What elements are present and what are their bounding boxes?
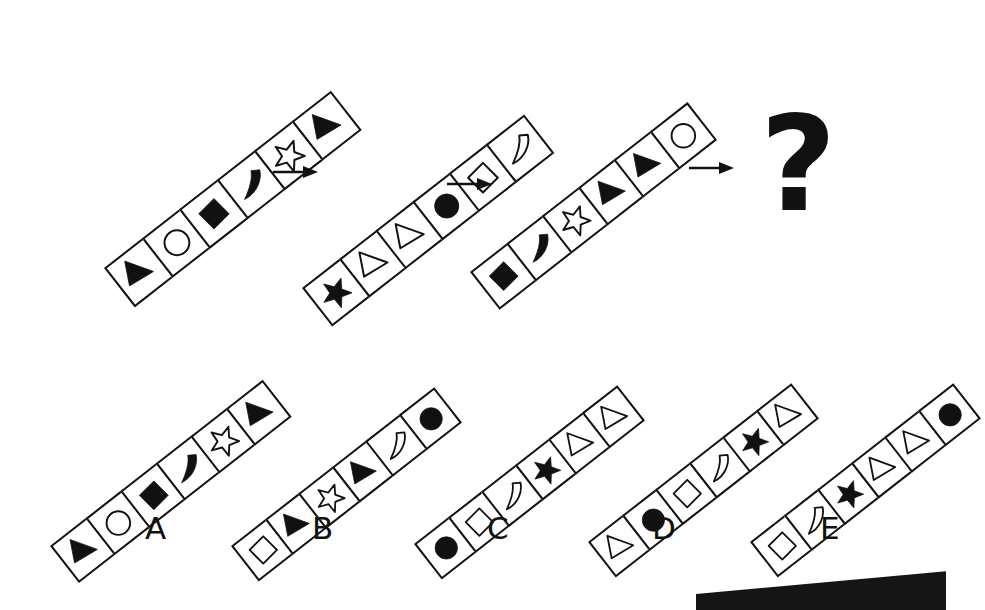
filled-triangle-icon [593,173,631,211]
filled-circle-icon [412,401,448,437]
filled-crescent-icon [169,449,207,487]
empty-triangle-icon [390,215,429,254]
empty-triangle-icon [769,397,805,433]
empty-crescent-icon [495,477,531,513]
empty-diamond-icon [669,475,705,511]
empty-triangle-icon [602,528,638,564]
filled-triangle-icon [64,531,102,569]
answer-option-label-b[interactable]: B [312,513,333,544]
filled-star-icon [831,475,867,511]
empty-star-icon [205,421,243,459]
filled-diamond-icon [485,257,523,295]
empty-star-icon [557,201,595,239]
sequence-arrow-1 [272,164,318,180]
empty-triangle-icon [595,399,631,435]
empty-crescent-icon [379,427,415,463]
filled-crescent-icon [232,164,272,204]
question-mark-placeholder[interactable]: ? [760,98,837,230]
answer-option-label-c[interactable]: C [487,513,509,544]
empty-diamond-icon [245,532,281,568]
filled-triangle-icon [345,453,381,489]
filled-diamond-icon [194,194,234,234]
filled-diamond-icon [134,476,172,514]
empty-crescent-icon [501,129,540,168]
filled-triangle-icon [278,506,314,542]
filled-star-icon [528,451,564,487]
empty-triangle-icon [864,449,900,485]
answer-option-label-e[interactable]: E [820,513,840,544]
empty-triangle-icon [354,244,393,283]
empty-diamond-icon [764,528,800,564]
filled-circle-icon [427,187,466,226]
empty-triangle-icon [562,425,598,461]
answer-option-label-a[interactable]: A [145,513,166,544]
filled-triangle-icon [240,394,278,432]
filled-triangle-icon [119,252,159,292]
filled-star-icon [317,273,356,312]
filled-circle-icon [428,530,464,566]
empty-circle-icon [664,117,702,155]
answer-option-label-d[interactable]: D [652,513,676,544]
sequence-arrow-2 [446,176,492,192]
filled-triangle-icon [307,106,347,146]
filled-star-icon [736,423,772,459]
empty-circle-icon [157,223,197,263]
empty-triangle-icon [898,423,934,459]
filled-triangle-icon [628,145,666,183]
filled-crescent-icon [521,229,559,267]
empty-crescent-icon [702,449,738,485]
sequence-arrow-3 [688,160,734,176]
filled-circle-icon [931,397,967,433]
empty-circle-icon [99,504,137,542]
